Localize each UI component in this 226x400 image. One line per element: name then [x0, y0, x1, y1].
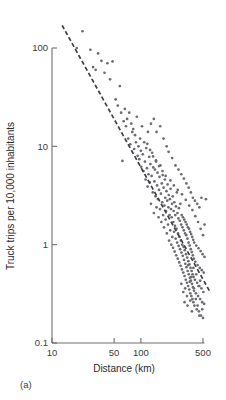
data-point	[196, 203, 199, 206]
data-point	[193, 304, 196, 307]
data-point	[157, 216, 160, 219]
data-point	[184, 278, 187, 281]
data-point	[146, 185, 149, 188]
data-point	[167, 150, 170, 153]
x-tick-label: 10	[47, 347, 58, 358]
data-point	[140, 165, 143, 168]
data-point	[181, 268, 184, 271]
data-point	[100, 60, 103, 63]
data-point	[180, 251, 183, 254]
data-point	[175, 254, 178, 257]
data-point	[119, 85, 122, 88]
data-point	[205, 198, 208, 201]
data-point	[188, 288, 191, 291]
data-point	[143, 141, 146, 144]
data-point	[173, 201, 176, 204]
data-point	[151, 191, 154, 194]
data-point	[202, 271, 205, 274]
data-point	[145, 147, 148, 150]
data-point	[192, 196, 195, 199]
data-point	[189, 267, 192, 270]
data-point	[155, 131, 158, 134]
data-point	[133, 148, 136, 151]
data-point	[182, 216, 185, 219]
data-point	[149, 163, 152, 166]
data-point	[156, 184, 159, 187]
data-point	[186, 270, 189, 273]
data-point	[177, 217, 180, 220]
data-point	[199, 279, 202, 282]
data-point	[156, 171, 159, 174]
data-point	[200, 196, 203, 199]
data-point	[187, 241, 190, 244]
data-point	[165, 190, 168, 193]
data-point	[135, 141, 138, 144]
data-point	[185, 234, 188, 237]
data-point	[176, 212, 179, 215]
data-point	[173, 231, 176, 234]
data-point	[197, 285, 200, 288]
data-point	[191, 310, 194, 313]
data-point	[169, 229, 172, 232]
data-point	[103, 71, 106, 74]
data-point	[187, 260, 190, 263]
data-point	[155, 160, 158, 163]
data-point	[169, 187, 172, 190]
data-point	[167, 206, 170, 209]
data-point	[183, 259, 186, 262]
data-point	[202, 317, 205, 320]
data-point	[178, 207, 181, 210]
data-point	[186, 304, 189, 307]
data-point	[196, 264, 199, 267]
data-point	[187, 273, 190, 276]
data-point	[203, 303, 206, 306]
data-point	[125, 125, 128, 128]
data-point	[166, 199, 169, 202]
data-point	[123, 108, 126, 111]
data-point	[187, 264, 190, 267]
data-point	[132, 128, 135, 131]
data-point	[188, 244, 191, 247]
data-point	[138, 158, 141, 161]
data-point	[197, 247, 200, 250]
data-point	[184, 221, 187, 224]
data-point	[203, 256, 206, 259]
data-point	[192, 238, 195, 241]
x-tick-label: 100	[133, 347, 149, 358]
data-point	[191, 282, 194, 285]
data-point	[181, 254, 184, 257]
data-point	[199, 250, 202, 253]
data-point	[181, 226, 184, 229]
data-point	[169, 198, 172, 201]
x-tick-label: 50	[109, 347, 120, 358]
data-point	[189, 248, 192, 251]
data-point	[193, 287, 196, 290]
data-point	[81, 30, 84, 33]
data-point	[146, 167, 149, 170]
data-point	[194, 199, 197, 202]
data-point	[106, 62, 109, 65]
data-point	[180, 223, 183, 226]
data-point	[152, 166, 155, 169]
data-point	[193, 241, 196, 244]
data-point	[181, 193, 184, 196]
data-point	[163, 226, 166, 229]
data-point	[183, 301, 186, 304]
data-point	[179, 203, 182, 206]
y-axis-title: Truck trips per 10,000 inhabitants	[5, 122, 16, 270]
data-point	[201, 308, 204, 311]
data-point	[151, 151, 154, 154]
data-point	[200, 269, 203, 272]
data-point	[162, 214, 165, 217]
data-point	[185, 223, 188, 226]
data-point	[198, 310, 201, 313]
data-point	[171, 236, 174, 239]
trend-line	[62, 25, 210, 292]
trendline-layer	[62, 25, 210, 292]
figure-panel: 0.11101001050100500 Distance (km) Truck …	[0, 0, 226, 400]
data-point	[170, 243, 173, 246]
data-point	[92, 66, 95, 69]
data-point	[89, 48, 92, 51]
data-point	[160, 221, 163, 224]
data-point	[94, 68, 97, 71]
